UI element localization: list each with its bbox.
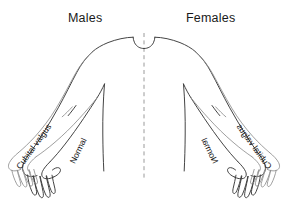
neck-outline-right (144, 37, 155, 48)
anatomical-diagram: Males Females (0, 0, 288, 219)
valgus-hand-right-finger-1 (267, 170, 276, 186)
torso-edge-left (103, 84, 105, 171)
normal-hand-right-finger-2 (245, 176, 255, 198)
normal-hand-left-finger-2 (34, 176, 44, 198)
normal-hand-right (235, 162, 246, 179)
torso-edge-right (184, 84, 186, 171)
neck-outline-left (133, 37, 144, 48)
figure-drawing (0, 0, 288, 219)
normal-hand-left-thumb (52, 168, 60, 178)
shoulder-right (155, 37, 196, 51)
valgus-hand-left-finger-1 (12, 170, 21, 186)
normal-hand-left (42, 162, 53, 179)
normal-hand-right-thumb (228, 168, 236, 178)
shoulder-left (93, 37, 134, 51)
